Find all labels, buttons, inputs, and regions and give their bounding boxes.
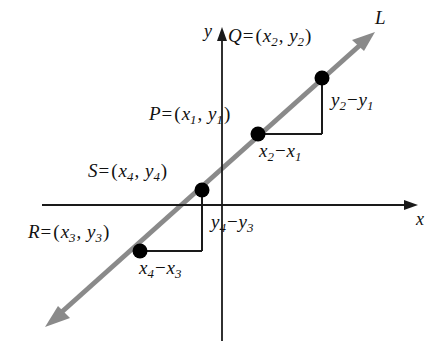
point-P-x-sub: 1 — [190, 112, 196, 127]
y-axis-arrowhead — [217, 27, 227, 41]
point-S-dot — [195, 183, 210, 198]
diagram-canvas — [0, 0, 436, 351]
point-P-comma: , — [197, 103, 204, 124]
point-R-open-paren: ( — [52, 221, 60, 242]
lower-triangle-legs — [140, 190, 202, 251]
point-Q-label: Q=(x2, y2) — [228, 26, 312, 45]
x-axis-label: x — [416, 210, 424, 228]
point-P-equals: = — [161, 103, 174, 124]
lower-rise-operator: − — [226, 211, 239, 232]
upper-run-b-sub: 1 — [295, 149, 301, 164]
point-P-open-paren: ( — [173, 103, 181, 124]
x-axis-group — [42, 200, 418, 210]
point-Q-dot — [315, 71, 330, 86]
upper-rise-b-sub: 1 — [367, 98, 373, 113]
lower-run-b-sub: 3 — [175, 266, 181, 281]
lower-run-a-sub: 4 — [147, 266, 153, 281]
point-Q-x-var: x — [263, 25, 271, 46]
point-Q-close-paren: ) — [304, 25, 312, 46]
point-P-name: P — [149, 103, 161, 124]
point-Q-open-paren: ( — [254, 25, 262, 46]
lower-rise-label: y4−y3 — [211, 212, 254, 231]
y-axis-group — [217, 27, 227, 341]
lower-rise-a-sub: 4 — [219, 220, 225, 235]
point-Q-name: Q — [228, 25, 242, 46]
upper-rise-b-var: y — [359, 89, 367, 110]
lower-run-operator: − — [154, 257, 167, 278]
point-R-name: R — [28, 221, 40, 242]
lower-run-b-var: x — [167, 257, 175, 278]
point-Q-equals: = — [242, 25, 255, 46]
point-P-x-var: x — [182, 103, 190, 124]
point-P-close-paren: ) — [223, 103, 231, 124]
upper-rise-a-sub: 2 — [339, 98, 345, 113]
upper-run-operator: − — [274, 140, 287, 161]
upper-rise-label: y2−y1 — [331, 90, 374, 109]
slope-diagram-figure: y x L Q=(x2, y2) P=(x1, y1) S=(x4, y4) R… — [0, 0, 436, 351]
point-S-open-paren: ( — [110, 160, 118, 181]
upper-run-label: x2−x1 — [259, 141, 302, 160]
lower-run-label: x4−x3 — [139, 258, 182, 277]
point-S-name: S — [88, 160, 98, 181]
point-R-label: R=(x3, y3) — [28, 222, 110, 241]
point-R-comma: , — [76, 221, 83, 242]
point-P-y-sub: 1 — [216, 112, 222, 127]
point-Q-x-sub: 2 — [271, 34, 277, 49]
point-R-x-sub: 3 — [69, 230, 75, 245]
point-S-x-var: x — [119, 160, 127, 181]
upper-rise-operator: − — [346, 89, 359, 110]
point-S-close-paren: ) — [160, 160, 168, 181]
point-Q-comma: , — [278, 25, 285, 46]
line-L-label: L — [375, 8, 386, 27]
point-R-x-var: x — [61, 221, 69, 242]
point-R-y-sub: 3 — [95, 230, 101, 245]
point-S-comma: , — [133, 160, 140, 181]
upper-run-b-var: x — [287, 140, 295, 161]
point-S-equals: = — [98, 160, 111, 181]
point-S-label: S=(x4, y4) — [88, 161, 168, 180]
point-S-y-sub: 4 — [153, 169, 159, 184]
lower-rise-b-var: y — [239, 211, 247, 232]
lower-rise-b-sub: 3 — [247, 220, 253, 235]
point-Q-y-var: y — [289, 25, 297, 46]
point-P-label: P=(x1, y1) — [149, 104, 231, 123]
point-R-equals: = — [40, 221, 53, 242]
y-axis-label: y — [204, 22, 212, 40]
point-R-close-paren: ) — [102, 221, 110, 242]
upper-run-a-sub: 2 — [267, 149, 273, 164]
